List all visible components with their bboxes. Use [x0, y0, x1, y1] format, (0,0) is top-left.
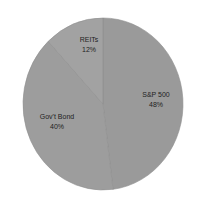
slice-label-pct: 12% [82, 46, 96, 53]
slice-label-name: REITs [80, 36, 99, 43]
pie-chart: S&P 500 48% Gov't Bond 40% REITs 12% [0, 0, 197, 205]
slice-label-pct: 48% [149, 101, 163, 108]
pie-slice-s-p-500 [103, 18, 183, 189]
slice-label-name: S&P 500 [142, 91, 170, 98]
slice-label-name: Gov't Bond [40, 113, 75, 120]
slice-label-pct: 40% [50, 123, 64, 130]
